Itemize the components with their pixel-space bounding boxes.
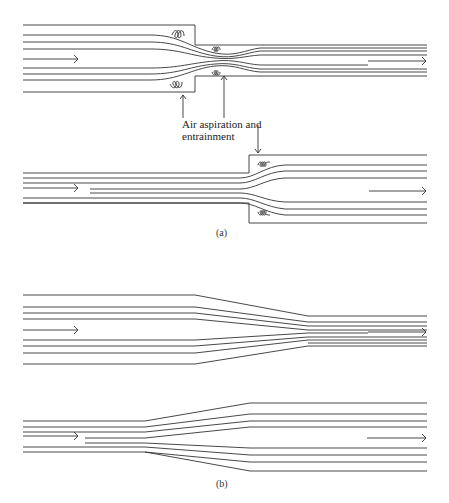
arrow-out <box>368 57 426 65</box>
arrow-in <box>23 55 78 63</box>
streamline <box>23 319 427 330</box>
eddy <box>258 162 270 167</box>
sudden-expansion-diagram <box>23 155 427 223</box>
pointer-arrow <box>221 76 227 118</box>
streamline <box>23 340 427 353</box>
streamline <box>23 198 427 209</box>
arrow-out <box>368 328 426 336</box>
wall-top <box>23 403 427 421</box>
wall-bottom <box>23 346 427 364</box>
wall-bottom <box>23 76 427 92</box>
streamline <box>23 313 427 326</box>
panel-label-b: (b) <box>216 478 228 489</box>
streamline <box>23 421 427 432</box>
gradual-contraction-diagram <box>23 295 427 364</box>
gradual-expansion-diagram <box>23 403 427 471</box>
panel-label-a: (a) <box>216 227 227 238</box>
wall-bottom <box>23 203 427 223</box>
streamline <box>145 452 427 462</box>
streamline <box>23 165 427 178</box>
streamline <box>23 307 427 322</box>
eddy <box>170 81 182 87</box>
streamline <box>23 414 427 427</box>
arrow-in <box>23 326 78 334</box>
eddy <box>172 31 184 38</box>
eddy <box>212 71 220 76</box>
annotation-line-1: Air aspiration and <box>182 118 261 130</box>
arrow-out <box>367 434 426 442</box>
arrow-in <box>23 432 78 440</box>
flow-diagram <box>0 0 449 503</box>
streamline <box>90 178 427 189</box>
annotation-line-2: entrainment <box>182 130 235 142</box>
arrow-in <box>23 184 78 192</box>
streamline <box>23 333 368 340</box>
streamline <box>85 427 427 438</box>
streamline <box>90 193 427 202</box>
wall-top <box>23 155 427 173</box>
arrow-out <box>369 187 426 195</box>
eddy <box>212 47 220 52</box>
pointer-arrow <box>180 95 186 118</box>
